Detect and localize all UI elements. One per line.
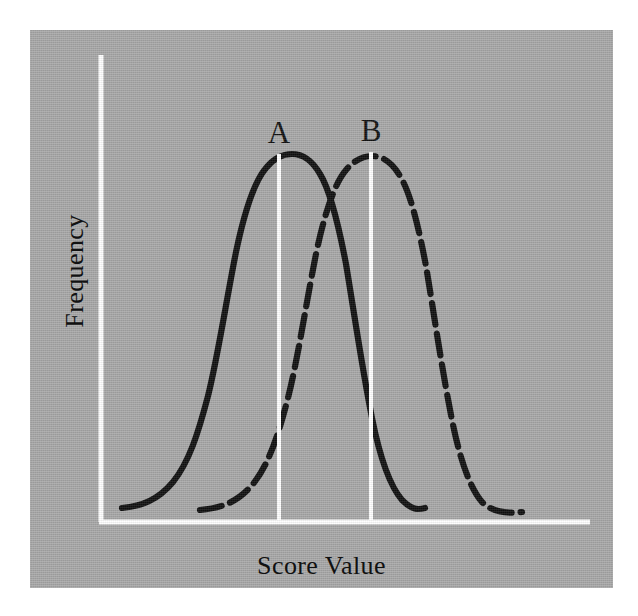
peak-label-b: B: [361, 113, 382, 148]
figure-canvas: A B Frequency Score Value: [0, 0, 638, 616]
plot-panel: A B Frequency Score Value: [30, 30, 613, 588]
curve-series-a: [122, 154, 425, 509]
peak-label-a: A: [268, 115, 291, 150]
x-axis-label: Score Value: [30, 553, 613, 579]
y-axis-label: Frequency: [62, 181, 88, 361]
chart-svg: A B: [30, 30, 613, 588]
